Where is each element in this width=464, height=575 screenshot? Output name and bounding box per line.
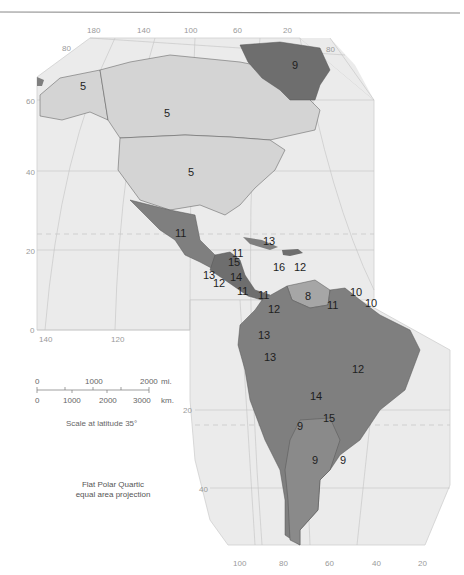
svg-text:80: 80 (279, 559, 288, 568)
svg-text:14: 14 (310, 390, 322, 402)
svg-text:13: 13 (264, 351, 276, 363)
svg-text:140: 140 (137, 26, 151, 35)
projection-line2: equal area projection (58, 490, 168, 500)
svg-text:11: 11 (327, 299, 338, 311)
svg-text:40: 40 (26, 168, 35, 177)
svg-text:10: 10 (350, 286, 362, 298)
svg-text:120: 120 (111, 335, 125, 344)
svg-text:0: 0 (30, 326, 35, 335)
svg-text:20: 20 (183, 406, 192, 415)
svg-text:40: 40 (372, 559, 381, 568)
scale-km-0: 0 (35, 396, 39, 405)
svg-text:11: 11 (175, 227, 186, 239)
svg-text:9: 9 (292, 59, 298, 71)
svg-text:8: 8 (305, 290, 311, 302)
scale-mi-unit: mi. (161, 377, 172, 386)
svg-text:5: 5 (80, 80, 86, 92)
svg-text:15: 15 (228, 256, 240, 268)
scale-caption: Scale at latitude 35° (66, 419, 137, 428)
svg-text:12: 12 (352, 363, 364, 375)
svg-text:16: 16 (273, 261, 285, 273)
svg-text:9: 9 (297, 420, 303, 432)
svg-text:13: 13 (263, 235, 275, 247)
scale-km-1000: 1000 (63, 396, 81, 405)
svg-text:15: 15 (323, 412, 335, 424)
svg-text:100: 100 (233, 559, 247, 568)
svg-text:12: 12 (213, 277, 225, 289)
svg-text:14: 14 (230, 271, 242, 283)
svg-text:60: 60 (233, 26, 242, 35)
scale-km-unit: km. (161, 396, 174, 405)
scale-km-3000: 3000 (133, 396, 151, 405)
svg-text:5: 5 (164, 107, 170, 119)
svg-text:11: 11 (237, 285, 248, 297)
scale-mi-1000: 1000 (85, 377, 103, 386)
scale-km-2000: 2000 (99, 396, 117, 405)
scale-mi-0: 0 (35, 377, 39, 386)
svg-text:80: 80 (62, 44, 71, 53)
svg-text:10: 10 (365, 297, 377, 309)
svg-text:40: 40 (199, 485, 208, 494)
svg-text:9: 9 (312, 454, 318, 466)
svg-text:20: 20 (26, 247, 35, 256)
svg-text:140: 140 (39, 335, 53, 344)
svg-text:180: 180 (87, 26, 101, 35)
svg-text:5: 5 (188, 166, 194, 178)
svg-text:20: 20 (418, 559, 427, 568)
projection-note: Flat Polar Quartic equal area projection (58, 480, 168, 500)
svg-text:60: 60 (325, 559, 334, 568)
scale-mi-2000: 2000 (140, 377, 158, 386)
svg-text:11: 11 (258, 289, 269, 301)
svg-text:60: 60 (26, 97, 35, 106)
svg-text:12: 12 (294, 261, 306, 273)
svg-text:9: 9 (340, 454, 346, 466)
svg-text:13: 13 (258, 329, 270, 341)
projection-line1: Flat Polar Quartic (58, 480, 168, 490)
svg-text:80: 80 (326, 45, 335, 54)
scale-bar (37, 387, 149, 393)
svg-text:12: 12 (268, 303, 280, 315)
top-rule (0, 12, 460, 13)
svg-text:20: 20 (283, 26, 292, 35)
svg-text:100: 100 (184, 26, 198, 35)
